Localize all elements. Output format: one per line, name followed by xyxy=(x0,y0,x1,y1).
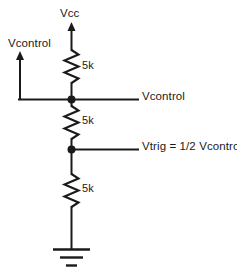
label-vcontrol-node: Vcontrol xyxy=(142,91,185,103)
ground-symbol-icon xyxy=(53,250,90,266)
resistor-r2 xyxy=(65,100,79,150)
vcontrol-source-branch xyxy=(16,51,72,100)
label-vcc: Vcc xyxy=(60,8,79,20)
resistor-r3 xyxy=(65,150,79,250)
circuit-schematic: Vcc Vcontrol 5k Vcontrol 5k Vtrig = 1/2 … xyxy=(0,0,237,280)
resistor-r1 xyxy=(65,50,79,99)
resistor-r2-zigzag xyxy=(65,106,79,139)
label-resistor-r1-value: 5k xyxy=(82,60,94,71)
vcontrol-node-group xyxy=(68,96,139,104)
label-vtrig-node: Vtrig = 1/2 Vcontrol xyxy=(142,141,237,153)
label-vcontrol-source: Vcontrol xyxy=(8,38,51,50)
resistor-r1-zigzag xyxy=(65,50,79,83)
vcc-supply-net xyxy=(68,22,76,50)
label-resistor-r2-value: 5k xyxy=(82,115,94,126)
vtrig-node-group xyxy=(68,146,139,154)
label-resistor-r3-value: 5k xyxy=(82,183,94,194)
resistor-r3-zigzag xyxy=(65,174,79,207)
